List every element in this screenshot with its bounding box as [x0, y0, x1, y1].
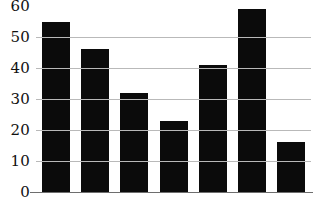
plot-area: [36, 0, 311, 204]
y-tick-label-30: 30: [11, 92, 31, 107]
bar-chart: 0102030405060: [0, 0, 317, 204]
bar: [81, 49, 109, 192]
y-tick-label-20: 20: [11, 123, 31, 138]
bar: [199, 65, 227, 192]
bar: [160, 121, 188, 192]
y-tick-label-10: 10: [11, 154, 31, 169]
x-axis-line: [30, 192, 313, 193]
y-tick-label-50: 50: [11, 30, 31, 45]
y-tick-label-60: 60: [11, 0, 31, 14]
bar: [238, 9, 266, 192]
bar: [277, 142, 305, 192]
y-axis: 0102030405060: [0, 0, 34, 204]
bar: [120, 93, 148, 192]
y-tick-label-0: 0: [20, 185, 30, 200]
bar: [42, 22, 70, 193]
y-tick-label-40: 40: [11, 61, 31, 76]
